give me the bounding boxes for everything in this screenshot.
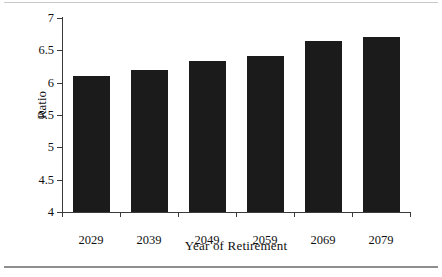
x-axis-tick-mark xyxy=(352,212,353,217)
y-axis-tick-label: 7 xyxy=(48,12,54,25)
figure-bottom-rule xyxy=(4,266,438,268)
y-axis-tick-label: 4 xyxy=(48,206,54,219)
plot-area: 44.555.566.57 202920392049205920692079 xyxy=(62,18,410,212)
bar xyxy=(363,37,400,212)
y-axis-title: Ratio xyxy=(34,75,50,135)
x-axis-title: Year of Retirement xyxy=(62,238,410,254)
bar-series xyxy=(62,18,410,212)
x-axis-tick-mark xyxy=(294,212,295,217)
bar xyxy=(247,56,284,212)
x-axis-tick-mark xyxy=(62,212,63,217)
bar xyxy=(131,70,168,212)
x-axis-tick-mark xyxy=(120,212,121,217)
y-axis-tick-label: 4.5 xyxy=(38,173,54,186)
x-axis-tick-mark xyxy=(178,212,179,217)
figure-top-rule xyxy=(4,2,438,3)
x-axis-tick-mark xyxy=(236,212,237,217)
bar xyxy=(189,61,226,212)
y-axis-tick-label: 5 xyxy=(48,141,54,154)
bar xyxy=(73,76,110,212)
y-axis-tick-label: 6.5 xyxy=(38,44,54,57)
bar xyxy=(305,41,342,212)
chart-figure: 44.555.566.57 202920392049205920692079 R… xyxy=(0,0,442,277)
x-axis-tick-mark xyxy=(410,212,411,217)
